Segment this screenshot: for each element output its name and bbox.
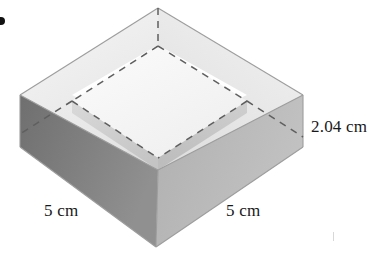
scan-artifact-tick	[333, 232, 334, 241]
dimension-label-height: 2.04 cm	[311, 117, 367, 137]
dimension-label-width-left: 5 cm	[44, 201, 78, 221]
dimension-label-width-right: 5 cm	[226, 201, 260, 221]
figure-container: 2.04 cm 5 cm 5 cm	[0, 0, 389, 259]
